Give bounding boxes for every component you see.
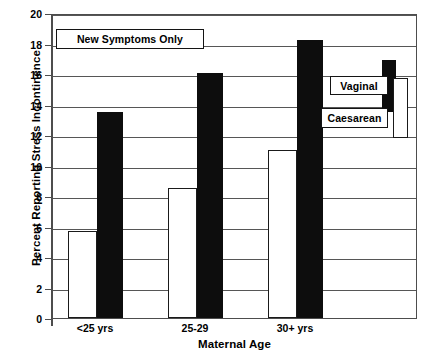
y-tick-label-0: 0 [16, 313, 42, 325]
y-tick-20 [45, 14, 52, 15]
bar-caesarean-25to29 [168, 188, 197, 318]
bar-vaginal-25to29 [197, 73, 223, 319]
y-tick-6 [45, 228, 52, 229]
annotation-new-symptoms-only: New Symptoms Only [56, 29, 204, 49]
y-tick-label-6: 6 [16, 222, 42, 234]
y-tick-label-8: 8 [16, 191, 42, 203]
bar-vaginal-under25 [97, 112, 123, 318]
bar-caesarean-30plus [268, 150, 297, 318]
y-tick-2 [45, 289, 52, 290]
y-axis-line [51, 14, 53, 326]
x-tick-label-under25: <25 yrs [52, 322, 138, 334]
legend-label-caesarean: Caesarean [321, 108, 388, 128]
y-tick-0 [45, 319, 52, 320]
y-axis-title: Percent Reporting Stress Incontinence [30, 28, 42, 288]
y-tick-4 [45, 258, 52, 259]
y-tick-label-2: 2 [16, 283, 42, 295]
y-tick-label-14: 14 [16, 100, 42, 112]
bar-vaginal-30plus [297, 40, 323, 318]
y-tick-label-18: 18 [16, 39, 42, 51]
scan-edge-artifact [0, 0, 426, 4]
y-tick-18 [45, 45, 52, 46]
bar-caesarean-under25 [68, 231, 97, 318]
plot-area [52, 14, 417, 319]
legend-label-vaginal: Vaginal [330, 76, 388, 95]
bar-chart: Percent Reporting Stress Incontinence 20… [0, 0, 426, 359]
y-tick-label-20: 20 [16, 8, 42, 20]
y-tick-8 [45, 197, 52, 198]
gridline-20 [53, 15, 416, 16]
y-tick-label-10: 10 [16, 161, 42, 173]
y-tick-10 [45, 167, 52, 168]
x-tick-label-30plus: 30+ yrs [252, 322, 338, 334]
y-tick-16 [45, 75, 52, 76]
y-tick-label-16: 16 [16, 69, 42, 81]
x-tick-label-25to29: 25-29 [152, 322, 238, 334]
y-tick-12 [45, 136, 52, 137]
x-axis-title: Maternal Age [52, 338, 417, 350]
y-tick-label-4: 4 [16, 252, 42, 264]
y-tick-14 [45, 106, 52, 107]
legend-swatch-caesarean [393, 78, 408, 138]
y-tick-label-12: 12 [16, 130, 42, 142]
